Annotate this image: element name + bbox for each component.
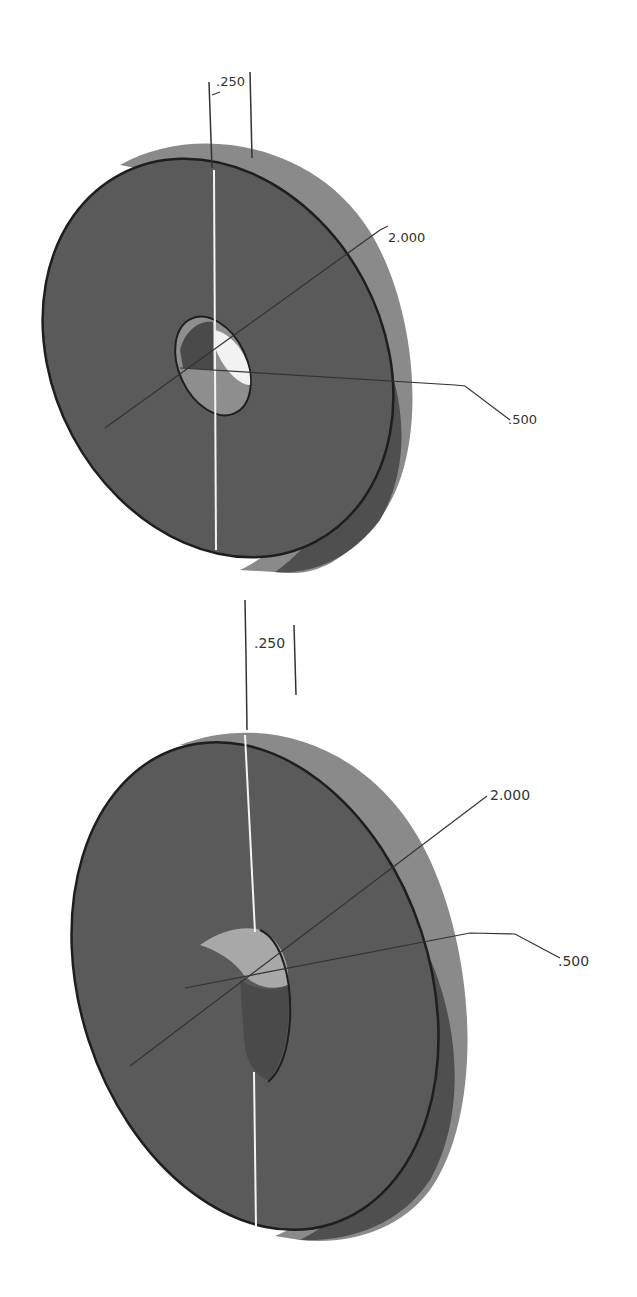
bottom-disk-drawing: .250 2.000 .500 [0, 600, 637, 1297]
bottom-thickness-ext-left [245, 600, 246, 655]
bottom-od-dim: 2.000 [490, 787, 530, 803]
bottom-thickness-dim: .250 [254, 635, 285, 651]
top-thickness-dim: .250 [216, 74, 245, 89]
top-disk-view: .250 2.000 .500 [0, 0, 637, 600]
bottom-thickness-ext-left-2 [246, 655, 247, 730]
top-disk-drawing: .250 2.000 .500 [0, 0, 637, 600]
top-hole-dim: .500 [508, 412, 537, 427]
top-thickness-ext-right [250, 72, 252, 158]
top-thickness-leader [212, 92, 220, 95]
top-od-dim: 2.000 [388, 230, 425, 245]
bottom-thickness-ext-right [294, 625, 296, 695]
bottom-boss-dim: .500 [558, 953, 589, 969]
bottom-disk-view: .250 2.000 .500 [0, 600, 637, 1297]
top-od-leader [380, 226, 388, 230]
